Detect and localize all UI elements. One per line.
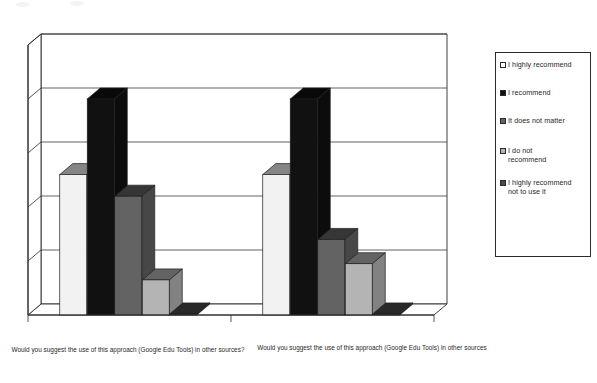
legend-item-label: I highly recommend: [508, 60, 572, 69]
legend-swatch-icon: [500, 180, 506, 186]
legend-item-label: I recommend: [508, 88, 551, 97]
category-label-1: Would you suggest the use of this approa…: [252, 343, 492, 353]
legend-item-label: It does not matter: [508, 116, 565, 125]
category-label-0: Would you suggest the use of this approa…: [8, 345, 248, 355]
chart-legend: I highly recommend I recommend It does n…: [495, 52, 591, 257]
legend-item[interactable]: I highly recommend not to use it: [500, 178, 587, 196]
legend-swatch-icon: [500, 148, 506, 154]
legend-swatch-icon: [500, 62, 506, 68]
chart-canvas: [14, 26, 484, 336]
legend-swatch-icon: [500, 90, 506, 96]
scan-artifact: [16, 2, 29, 7]
legend-item[interactable]: I highly recommend: [500, 60, 587, 69]
legend-item[interactable]: I do not recommend: [500, 146, 587, 164]
legend-item[interactable]: It does not matter: [500, 116, 587, 125]
legend-swatch-icon: [500, 118, 506, 124]
chart-screenshot: I highly recommend I recommend It does n…: [0, 0, 597, 383]
legend-item-label: I highly recommend not to use it: [508, 178, 572, 196]
scan-artifact: [70, 1, 84, 6]
plot-area: [14, 26, 480, 332]
legend-item-label: I do not recommend: [508, 146, 546, 164]
legend-item[interactable]: I recommend: [500, 88, 587, 97]
